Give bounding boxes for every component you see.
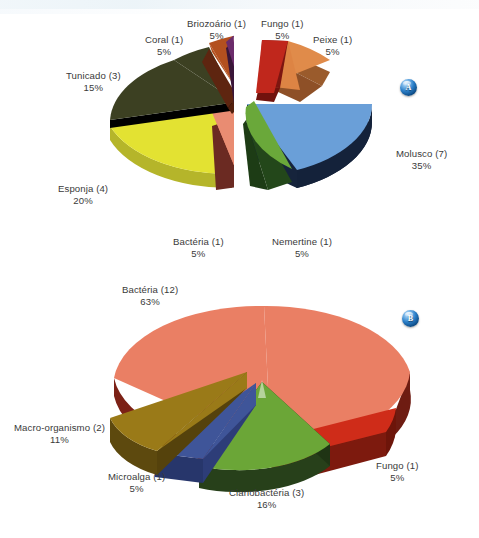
pie-a-label-fungo-pct: 5%: [261, 30, 304, 42]
pie-a-label-coral: Coral (1) 5%: [145, 34, 183, 57]
pie-a-label-fungo: Fungo (1) 5%: [261, 18, 304, 41]
pie-a-label-bacteria: Bactéria (1) 5%: [173, 236, 224, 259]
pie-chart-panel-a: Briozoário (1) 5% Fungo (1) 5% Coral (1)…: [0, 0, 479, 270]
pie-a-label-nemertine: Nemertine (1) 5%: [272, 236, 332, 259]
pie-b-label-fungo: Fungo (1) 5%: [376, 460, 419, 483]
pie-a-label-peixe: Peixe (1) 5%: [313, 34, 352, 57]
pie-a-label-esponja-name: Esponja (4): [58, 183, 108, 194]
pie-a-label-fungo-name: Fungo (1): [261, 18, 304, 29]
pie-b-label-ciano: Cianobactéria (3) 16%: [229, 487, 304, 510]
pie-a-label-nemertine-pct: 5%: [272, 248, 332, 260]
pie-b-label-macro-pct: 11%: [14, 434, 105, 446]
pie-a-right-half: [243, 40, 372, 190]
panel-badge-b-letter: B: [408, 314, 413, 323]
pie-a-label-bacteria-name: Bactéria (1): [173, 236, 224, 247]
pie-a-label-molusco-name: Molusco (7): [396, 148, 447, 159]
panel-badge-b: B: [402, 310, 419, 327]
pie-a-label-coral-name: Coral (1): [145, 34, 183, 45]
pie-b-label-bacteria-pct: 63%: [122, 296, 178, 308]
pie-b-label-bacteria-name: Bactéria (12): [122, 284, 178, 295]
pie-b-label-microalga-name: Microalga (1): [108, 471, 165, 482]
panel-badge-a: A: [400, 79, 417, 96]
pie-a-label-nemertine-name: Nemertine (1): [272, 236, 332, 247]
pie-a-label-molusco-pct: 35%: [396, 160, 447, 172]
pie-a-label-tunicado-pct: 15%: [66, 82, 121, 94]
pie-a-label-coral-pct: 5%: [145, 46, 183, 58]
pie-b-label-ciano-pct: 16%: [229, 499, 304, 511]
pie-b-label-fungo-name: Fungo (1): [376, 460, 419, 471]
pie-a-label-esponja: Esponja (4) 20%: [58, 183, 108, 206]
pie-a-label-tunicado-name: Tunicado (3): [66, 70, 121, 81]
pie-b-label-bacteria: Bactéria (12) 63%: [122, 284, 178, 307]
pie-b-label-ciano-name: Cianobactéria (3): [229, 487, 304, 498]
pie-a-label-molusco: Molusco (7) 35%: [396, 148, 447, 171]
pie-b-label-macro-name: Macro-organismo (2): [14, 422, 105, 433]
pie-b-label-macro: Macro-organismo (2) 11%: [14, 422, 105, 445]
pie-a-label-briozoario-name: Briozoário (1): [187, 18, 246, 29]
pie-a-label-briozoario: Briozoário (1) 5%: [187, 18, 246, 41]
pie-a-left-half: [110, 34, 246, 190]
pie-b-label-microalga-pct: 5%: [108, 483, 165, 495]
pie-a-label-peixe-pct: 5%: [313, 46, 352, 58]
pie-b-label-microalga: Microalga (1) 5%: [108, 471, 165, 494]
pie-a-label-esponja-pct: 20%: [58, 195, 108, 207]
pie-a-label-tunicado: Tunicado (3) 15%: [66, 70, 121, 93]
pie-a-label-bacteria-pct: 5%: [173, 248, 224, 260]
pie-b-label-fungo-pct: 5%: [376, 472, 419, 484]
pie-a-center-gap: [234, 30, 241, 230]
pie-chart-panel-b: Bactéria (12) 63% Macro-organismo (2) 11…: [0, 270, 479, 538]
pie-a-label-peixe-name: Peixe (1): [313, 34, 352, 45]
panel-badge-a-letter: A: [406, 83, 412, 92]
pie-a-label-briozoario-pct: 5%: [187, 30, 246, 42]
